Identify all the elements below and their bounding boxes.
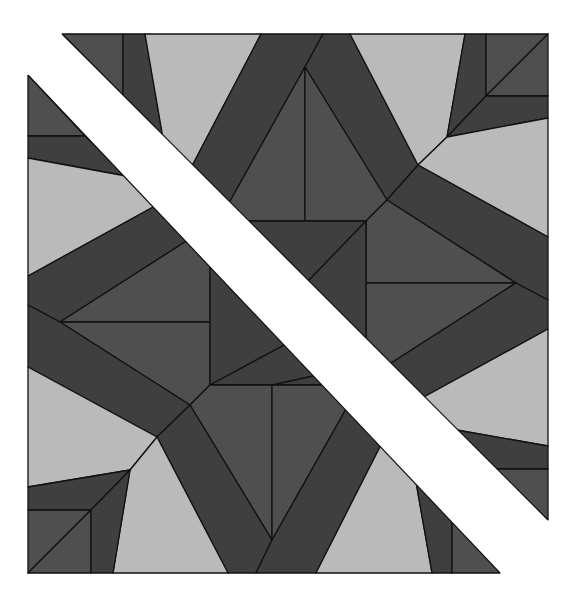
quilt-block xyxy=(0,0,578,602)
